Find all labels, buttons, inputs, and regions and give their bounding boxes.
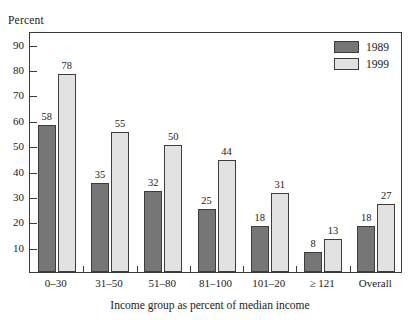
bar-value-label: 31 xyxy=(275,179,286,190)
y-axis-label: 50 xyxy=(0,141,24,152)
x-category-label: Overall xyxy=(335,277,415,289)
bar-1999-31–50: 55 xyxy=(111,132,129,272)
x-tick xyxy=(296,266,297,272)
y-tick-10 xyxy=(30,249,37,250)
plot-area: 587835553250254418318131827 19891999 xyxy=(29,32,402,273)
bar-value-label: 25 xyxy=(201,195,212,206)
y-tick-80 xyxy=(30,71,37,72)
bar-1999-0–30: 78 xyxy=(58,74,76,272)
bar-group: 2544 xyxy=(198,31,236,272)
y-axis-label: 40 xyxy=(0,167,24,178)
bar-value-label: 50 xyxy=(168,131,179,142)
y-axis-label: 90 xyxy=(0,40,24,51)
bar-1999-81–100: 44 xyxy=(218,160,236,272)
bar-1989-Overall: 18 xyxy=(357,226,375,272)
x-tick xyxy=(83,266,84,272)
y-axis-label: 80 xyxy=(0,65,24,76)
cutoff-title-fragment xyxy=(95,0,325,4)
x-tick xyxy=(190,266,191,272)
bar-group: 1831 xyxy=(251,31,289,272)
bar-value-label: 78 xyxy=(61,60,72,71)
y-tick-30 xyxy=(30,198,37,199)
bar-value-label: 8 xyxy=(310,238,315,249)
bar-1989-≥ 121: 8 xyxy=(304,252,322,272)
y-axis-label: 60 xyxy=(0,116,24,127)
bar-1999-Overall: 27 xyxy=(377,204,395,272)
legend: 19891999 xyxy=(334,41,389,70)
bar-1999-≥ 121: 13 xyxy=(324,239,342,272)
bar-1989-101–20: 18 xyxy=(251,226,269,272)
bar-group: 3250 xyxy=(144,31,182,272)
y-axis-label: 30 xyxy=(0,192,24,203)
y-tick-70 xyxy=(30,96,37,97)
x-tick xyxy=(350,266,351,272)
x-axis-title: Income group as percent of median income xyxy=(0,299,420,312)
y-tick-50 xyxy=(30,147,37,148)
bar-1989-51–80: 32 xyxy=(144,191,162,272)
bar-value-label: 58 xyxy=(41,111,52,122)
bar-1989-31–50: 35 xyxy=(91,183,109,272)
y-axis-title: Percent xyxy=(8,14,44,27)
chart-figure: Percent 587835553250254418318131827 1989… xyxy=(0,0,420,320)
y-tick-90 xyxy=(30,46,37,47)
y-tick-60 xyxy=(30,122,37,123)
bar-group: 5878 xyxy=(38,31,76,272)
bar-1999-101–20: 31 xyxy=(271,193,289,272)
y-tick-20 xyxy=(30,223,37,224)
bar-value-label: 27 xyxy=(381,190,392,201)
y-axis-label: 20 xyxy=(0,217,24,228)
bar-1989-81–100: 25 xyxy=(198,209,216,272)
legend-swatch-1989 xyxy=(334,41,359,53)
bar-value-label: 18 xyxy=(361,212,372,223)
legend-item-1999: 1999 xyxy=(334,58,389,70)
y-axis-label: 70 xyxy=(0,90,24,101)
legend-swatch-1999 xyxy=(334,58,359,70)
legend-label: 1989 xyxy=(366,41,389,53)
y-tick-40 xyxy=(30,173,37,174)
bar-group: 3555 xyxy=(91,31,129,272)
bar-value-label: 32 xyxy=(148,177,159,188)
x-tick xyxy=(137,266,138,272)
bar-value-label: 44 xyxy=(221,146,232,157)
bar-value-label: 35 xyxy=(95,169,106,180)
bar-value-label: 18 xyxy=(255,212,266,223)
y-axis-label: 10 xyxy=(0,243,24,254)
legend-item-1989: 1989 xyxy=(334,41,389,53)
bar-1999-51–80: 50 xyxy=(164,145,182,272)
bar-1989-0–30: 58 xyxy=(38,125,56,272)
legend-label: 1999 xyxy=(366,58,389,70)
bar-value-label: 13 xyxy=(328,225,339,236)
x-tick xyxy=(243,266,244,272)
bar-value-label: 55 xyxy=(115,118,126,129)
